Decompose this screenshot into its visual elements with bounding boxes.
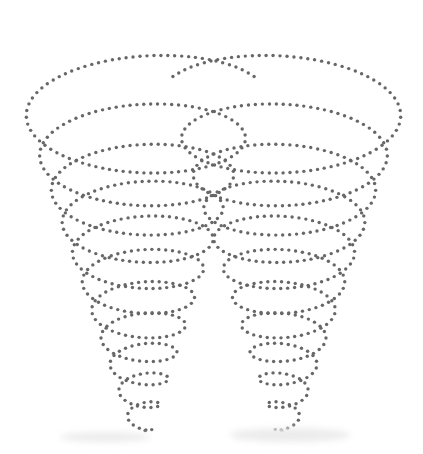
dot [268, 261, 271, 264]
dot [191, 279, 194, 282]
dot [103, 257, 106, 260]
dot [154, 214, 157, 217]
dot [235, 183, 238, 186]
dot [242, 182, 245, 185]
dot [109, 200, 112, 203]
dot [106, 185, 109, 188]
dot [97, 260, 100, 263]
dot [246, 202, 249, 205]
dot [355, 188, 358, 191]
dot [212, 152, 215, 155]
dot [230, 118, 233, 121]
dot [274, 406, 277, 409]
dot [197, 275, 200, 278]
dot [94, 151, 97, 154]
dot [287, 281, 290, 284]
dot [201, 57, 204, 60]
dot [164, 204, 167, 207]
dot [165, 286, 168, 289]
dot [177, 144, 180, 147]
dot [309, 169, 312, 172]
dot [132, 423, 135, 426]
dot [144, 311, 147, 314]
dot [335, 224, 338, 227]
dot [109, 306, 112, 309]
dot [142, 406, 145, 409]
dot [104, 59, 107, 62]
dot [303, 259, 306, 262]
dot [135, 103, 138, 106]
dot [315, 366, 318, 369]
dot [194, 155, 197, 158]
dot [330, 252, 333, 255]
dot [286, 359, 289, 362]
dot [178, 231, 181, 234]
dot [282, 261, 285, 264]
dot [138, 426, 141, 429]
dot [39, 147, 42, 150]
dot [144, 336, 147, 339]
dot [259, 343, 262, 346]
dot [213, 240, 216, 243]
dot [152, 371, 155, 374]
dot [361, 185, 364, 188]
dot [161, 215, 164, 218]
dot [164, 248, 167, 251]
dot [145, 371, 148, 374]
dot [124, 333, 127, 336]
dot [267, 143, 270, 146]
dot [29, 129, 32, 132]
dot [235, 219, 238, 222]
dot [259, 380, 262, 383]
dot [202, 205, 205, 208]
dot [184, 252, 187, 255]
dot [166, 54, 169, 57]
dot [266, 342, 269, 345]
dot [232, 176, 235, 179]
dot [196, 63, 199, 66]
dot [171, 313, 174, 316]
dot [311, 183, 314, 186]
dot [177, 71, 180, 74]
dot [42, 167, 45, 170]
dot [57, 182, 60, 185]
dot [302, 232, 305, 235]
dot [349, 199, 352, 202]
dot [374, 189, 377, 192]
dot [120, 182, 123, 185]
dot [158, 382, 161, 385]
dot [123, 283, 126, 286]
dot [161, 180, 164, 183]
dot [323, 149, 326, 152]
dot [294, 282, 297, 285]
dot [254, 260, 257, 263]
dot [288, 204, 291, 207]
dot [127, 181, 130, 184]
dot [142, 171, 145, 174]
dot [183, 68, 186, 71]
dot [217, 161, 220, 164]
dot [232, 200, 235, 203]
dot [286, 382, 289, 385]
dot [31, 96, 34, 99]
dot [318, 348, 321, 351]
dot [132, 374, 135, 377]
dot [99, 323, 102, 326]
dot [69, 188, 72, 191]
dot [184, 286, 187, 289]
dot [246, 316, 249, 319]
dot [105, 324, 108, 327]
dot [299, 357, 302, 360]
dot [399, 109, 402, 112]
dot [320, 290, 323, 293]
dot [151, 287, 154, 290]
dot [288, 233, 291, 236]
dot [335, 196, 338, 199]
dot [111, 329, 114, 332]
dot [294, 313, 297, 316]
dot [252, 282, 255, 285]
dot [193, 296, 196, 299]
dot [252, 285, 255, 288]
dot [288, 103, 291, 106]
dot [313, 287, 316, 290]
